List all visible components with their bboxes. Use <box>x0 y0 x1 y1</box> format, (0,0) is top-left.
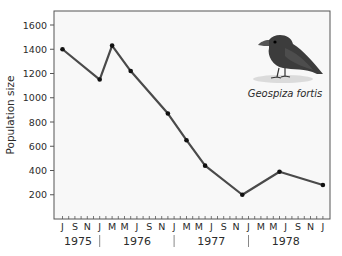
data-point <box>240 192 245 197</box>
x-month-label: N <box>233 221 240 232</box>
y-tick-label: 400 <box>29 165 47 176</box>
x-month-label: S <box>72 221 78 232</box>
x-month-label: S <box>146 221 152 232</box>
y-tick-label: 1000 <box>23 92 47 103</box>
x-year-label: 1978 <box>272 235 300 248</box>
y-tick-label: 1200 <box>23 68 47 79</box>
x-month-label: J <box>283 221 287 232</box>
x-month-label: N <box>307 221 314 232</box>
x-month-label: M <box>257 221 265 232</box>
x-month-label: J <box>134 221 138 232</box>
x-month-label: J <box>97 221 101 232</box>
data-point <box>128 69 133 74</box>
data-point <box>166 111 171 116</box>
x-month-label: S <box>295 221 301 232</box>
data-point <box>277 169 282 174</box>
x-month-label: S <box>221 221 227 232</box>
data-point <box>60 47 65 52</box>
x-month-label: N <box>158 221 165 232</box>
data-point <box>97 77 102 82</box>
x-month-label: J <box>320 221 324 232</box>
x-month-label: J <box>60 221 64 232</box>
x-month-label: M <box>195 221 203 232</box>
y-axis-label: Population size <box>4 76 16 155</box>
data-point <box>110 43 115 48</box>
x-month-label: M <box>108 221 116 232</box>
x-month-label: J <box>209 221 213 232</box>
y-tick-label: 600 <box>29 141 47 152</box>
data-point <box>184 138 189 143</box>
x-year-label: 1975 <box>64 235 92 248</box>
species-label: Geospiza fortis <box>248 88 323 99</box>
x-month-label: M <box>269 221 277 232</box>
population-chart: 2004006008001000120014001600 Population … <box>0 0 342 256</box>
y-tick-label: 1600 <box>23 20 47 31</box>
x-axis-month-labels: JSNJMMJSNJMMJSNJMMJSNJ <box>60 221 324 232</box>
x-month-label: N <box>84 221 91 232</box>
x-axis-year-labels: 1975197619771978 <box>64 235 300 248</box>
data-point <box>203 163 208 168</box>
x-month-label: J <box>246 221 250 232</box>
y-tick-label: 800 <box>29 117 47 128</box>
x-month-label: J <box>172 221 176 232</box>
data-point <box>321 183 326 188</box>
x-month-label: M <box>182 221 190 232</box>
x-year-label: 1976 <box>123 235 151 248</box>
x-month-label: M <box>120 221 128 232</box>
x-year-label: 1977 <box>197 235 225 248</box>
y-tick-label: 1400 <box>23 44 47 55</box>
y-axis-ticks: 2004006008001000120014001600 <box>23 20 54 201</box>
y-tick-label: 200 <box>29 189 47 200</box>
